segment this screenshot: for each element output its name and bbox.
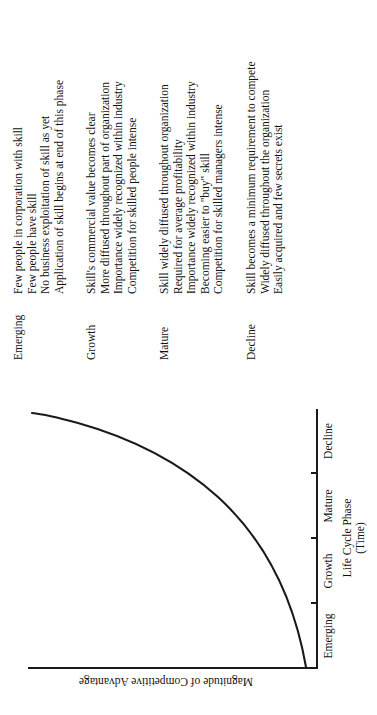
phase-bullet-list: Skill widely diffused throughout organiz… xyxy=(158,2,226,294)
list-item: Required for average profitability xyxy=(172,2,186,294)
list-item: No business exploitation of skill as yet xyxy=(39,2,53,294)
list-item: Competition for skilled managers intense xyxy=(212,2,226,294)
list-item: Few people have skill xyxy=(26,2,40,294)
list-item: Application of skill begins at end of th… xyxy=(53,2,67,294)
x-axis-title: Life Cycle Phase (Time) xyxy=(341,407,367,669)
x-tick-label-emerging: Emerging xyxy=(322,613,334,658)
phase-label: Growth xyxy=(85,298,99,360)
list-item: Becoming easier to "buy" skill xyxy=(199,2,213,294)
list-item: Skill's commercial value becomes clear xyxy=(85,2,99,294)
list-item: Competition for skilled people intense xyxy=(126,2,140,294)
phase-bullet-list: Few people in corporation with skill Few… xyxy=(12,2,66,294)
phase-label: Mature xyxy=(158,298,172,360)
list-item: Importance widely recognized within indu… xyxy=(185,2,199,294)
x-axis-title-line2: (Time) xyxy=(354,407,367,669)
x-axis-title-line1: Life Cycle Phase xyxy=(341,407,354,669)
list-item: Easily acquired and few secrets exist xyxy=(272,2,286,294)
competitive-advantage-curve xyxy=(28,409,318,669)
list-item: More diffused throughout part of organiz… xyxy=(99,2,113,294)
x-axis-tick-labels: Emerging Growth Mature Decline xyxy=(322,407,342,669)
scanned-page: Emerging Growth Mature Decline Life Cycl… xyxy=(0,0,377,715)
x-tick-label-growth: Growth xyxy=(322,553,334,588)
phase-label: Emerging xyxy=(12,298,26,360)
phase-bullet-list: Skill's commercial value becomes clear M… xyxy=(85,2,139,294)
list-item: Skill widely diffused throughout organiz… xyxy=(158,2,172,294)
life-cycle-chart: Emerging Growth Mature Decline Life Cycl… xyxy=(0,363,377,715)
list-item: Few people in corporation with skill xyxy=(12,2,26,294)
y-axis-title: Magnitude of Competitive Advantage xyxy=(41,676,291,688)
list-item: Widely diffused throughout the organizat… xyxy=(259,2,273,294)
life-cycle-phase-table: Emerging Few people in corporation with … xyxy=(0,0,377,360)
x-tick-label-decline: Decline xyxy=(322,423,334,459)
x-tick-label-mature: Mature xyxy=(322,489,334,522)
figure-stage: Emerging Growth Mature Decline Life Cycl… xyxy=(0,0,377,715)
chart-axes xyxy=(28,409,318,669)
phase-bullet-list: Skill becomes a minimum requirement to c… xyxy=(245,2,286,294)
list-item: Importance widely recognized within indu… xyxy=(112,2,126,294)
list-item: Skill becomes a minimum requirement to c… xyxy=(245,2,259,294)
phase-label: Decline xyxy=(245,298,259,360)
